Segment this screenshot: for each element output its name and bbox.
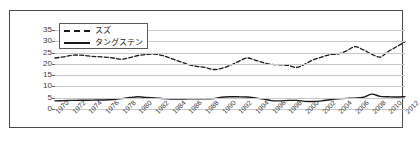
gridline — [55, 86, 405, 87]
y-axis-tick-label: 10 — [30, 82, 52, 90]
solid-line-icon — [64, 42, 90, 44]
y-axis-tick-label: 15 — [30, 71, 52, 79]
gridline — [55, 64, 405, 65]
chart-frame: 05101520253035 1970197219741976197819801… — [9, 10, 403, 128]
dashed-line-icon — [64, 30, 90, 32]
y-axis-tick-label: 30 — [30, 37, 52, 45]
y-axis: 05101520253035 — [28, 30, 52, 109]
y-axis-tick-label: 5 — [30, 94, 52, 102]
y-axis-tick-label: 35 — [30, 26, 52, 34]
legend-label-tin: スズ — [95, 26, 111, 36]
y-axis-tick-label: 25 — [30, 49, 52, 57]
y-axis-tick-label: 0 — [30, 105, 52, 113]
x-axis: 1970197219741976197819801982198419861988… — [55, 110, 405, 144]
x-axis-tick-label: 2012 — [404, 99, 420, 115]
gridline — [55, 98, 405, 99]
gridline — [55, 53, 405, 54]
legend-item-tin: スズ — [64, 25, 148, 37]
chart-legend: スズ タングステン — [59, 23, 148, 49]
y-axis-tick-label: 20 — [30, 60, 52, 68]
legend-item-tungsten: タングステン — [64, 37, 148, 49]
gridline — [55, 75, 405, 76]
legend-label-tungsten: タングステン — [95, 38, 143, 48]
